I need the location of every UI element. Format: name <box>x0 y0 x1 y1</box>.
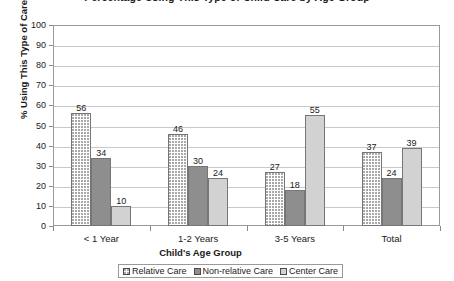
y-tick-label: 70 <box>0 81 46 90</box>
gridline <box>54 66 439 67</box>
gridline <box>54 167 439 168</box>
x-category-label: Total <box>382 233 402 244</box>
y-tick-label: 10 <box>0 202 46 211</box>
legend-label: Non-relative Care <box>203 266 274 276</box>
legend-item: Relative Care <box>123 266 187 276</box>
chart-title: Percentage Using This Type of Child Care… <box>0 0 454 3</box>
y-tick-label: 30 <box>0 162 46 171</box>
y-tick-label: 20 <box>0 182 46 191</box>
legend-label: Relative Care <box>132 266 187 276</box>
x-axis-title: Child's Age Group <box>53 247 348 258</box>
gridline <box>54 187 439 188</box>
gridline <box>54 46 439 47</box>
gridline <box>54 127 439 128</box>
y-tick-label: 50 <box>0 122 46 131</box>
y-tick-label: 40 <box>0 142 46 151</box>
y-tick-label: 60 <box>0 101 46 110</box>
x-tickmark <box>150 226 151 231</box>
gridline <box>54 207 439 208</box>
y-tick-label: 100 <box>0 21 46 30</box>
y-tick-label: 80 <box>0 61 46 70</box>
x-category-label: < 1 Year <box>84 233 119 244</box>
x-tickmark <box>247 226 248 231</box>
legend-swatch-icon <box>194 268 201 275</box>
gridline <box>54 106 439 107</box>
legend-item: Non-relative Care <box>194 266 274 276</box>
plot-area <box>53 25 440 226</box>
legend-item: Center Care <box>280 266 338 276</box>
x-category-label: 3-5 Years <box>275 233 315 244</box>
y-tick-label: 90 <box>0 41 46 50</box>
legend-swatch-icon <box>280 268 287 275</box>
x-tickmark <box>53 226 54 231</box>
y-tick-label: 0 <box>0 222 46 231</box>
legend-label: Center Care <box>289 266 338 276</box>
y-axis: 1009080706050403020100 <box>0 25 53 226</box>
x-tickmark <box>343 226 344 231</box>
chart-container: Percentage Using This Type of Child Care… <box>0 0 454 281</box>
legend-swatch-icon <box>123 268 130 275</box>
x-category-label: 1-2 Years <box>178 233 218 244</box>
x-tickmark <box>440 226 441 231</box>
chart-legend: Relative CareNon-relative CareCenter Car… <box>118 264 343 278</box>
gridline <box>54 147 439 148</box>
gridline <box>54 86 439 87</box>
